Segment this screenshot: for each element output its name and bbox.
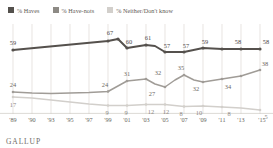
data-label-haves: 60 [126,38,132,45]
plot-area: 59 67 60 61 57 57 59 58 58 24 24 31 32 2… [0,22,273,114]
legend-swatch-haves [8,7,14,13]
x-axis-tick: '05 [161,116,168,124]
x-axis-tick: '01 [123,116,130,124]
data-label-haves: 57 [183,42,189,49]
data-label-haves: 61 [145,34,151,41]
data-label-have-nots: 32 [155,69,161,76]
data-label-have-nots: 27 [149,90,155,97]
data-label-haves: 59 [202,38,208,45]
data-label-haves: 59 [10,39,16,46]
gallup-haves-havenots-chart: % Haves % Have-nots % Neither/Don't know [0,0,273,148]
data-label-have-nots: 34 [225,83,231,90]
x-axis-tick: '97 [85,116,92,124]
series-markers-neither [12,96,262,112]
chart-footer: GALLUP [6,130,126,144]
data-label-have-nots: 38 [262,60,268,67]
chart-svg [0,22,273,114]
legend-item-haves: % Haves [8,7,40,14]
legend-label-haves: % Haves [17,7,40,14]
data-label-have-nots: 24 [102,81,108,88]
legend-label-neither: % Neither/Don't know [116,7,173,14]
x-axis-tick: '89 [9,116,16,124]
data-label-have-nots: 31 [124,70,130,77]
series-line-have-nots [13,70,260,94]
x-axis-tick: '07 [180,116,187,124]
data-label-have-nots: 24 [10,81,16,88]
x-axis-tick: '95 [66,116,73,124]
legend-label-have-nots: % Have-nots [62,7,95,14]
data-label-haves: 58 [263,38,269,45]
x-axis-tick: '93 [47,116,54,124]
data-label-haves: 58 [235,38,241,45]
legend-item-have-nots: % Have-nots [53,7,95,14]
data-label-neither: 17 [10,101,16,108]
chart-legend: % Haves % Have-nots % Neither/Don't know [8,4,266,16]
data-label-haves: 57 [164,42,170,49]
x-axis-tick: '13 [237,116,244,124]
x-axis-tick: '99 [104,116,111,124]
legend-swatch-have-nots [53,7,59,13]
data-label-haves: 67 [107,29,113,36]
x-axis-tick: '15 [258,116,265,124]
x-axis-tick: '11 [218,116,225,124]
series-line-neither [13,97,260,110]
legend-swatch-neither [107,7,113,13]
data-label-have-nots: 35 [178,64,184,71]
gallup-logo: GALLUP [6,137,41,146]
x-axis-tick: '09 [199,116,206,124]
series-markers-have-nots [12,69,262,94]
data-label-have-nots: 32 [193,85,199,92]
x-axis-tick: '03 [142,116,149,124]
legend-item-neither: % Neither/Don't know [107,7,173,14]
x-axis: '89 '90 '93 '95 '97 '99 '01 '03 '05 '07 … [0,113,273,126]
x-axis-tick: '90 [28,116,35,124]
